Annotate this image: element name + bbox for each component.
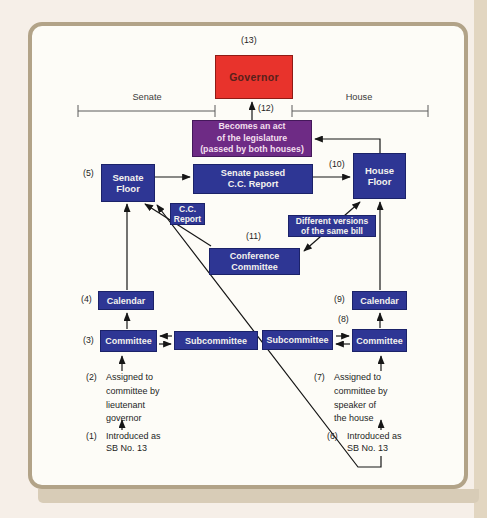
- senate-assigned-line-2: committee by: [106, 385, 160, 399]
- act-line-3: (passed by both houses): [200, 144, 304, 156]
- senate-chamber-label: Senate: [117, 92, 177, 102]
- step-1-number: (1): [86, 431, 97, 441]
- cc-report-line-2: Report: [174, 214, 201, 224]
- senate-assigned-note: Assigned to committee by lieutenant gove…: [106, 371, 160, 426]
- step-12-number: (12): [258, 103, 274, 113]
- house-chamber-label: House: [329, 92, 389, 102]
- house-assigned-line-1: Assigned to: [334, 371, 388, 385]
- senate-committee-label: Committee: [105, 336, 152, 346]
- house-floor-line-2: Floor: [368, 176, 392, 188]
- different-versions-line-2: of the same bill: [301, 226, 363, 236]
- step-4-number: (4): [81, 294, 92, 304]
- step-13-number: (13): [241, 35, 257, 45]
- step-8-number: (8): [338, 314, 349, 324]
- step-9-number: (9): [334, 294, 345, 304]
- cc-report-box: C.C. Report: [170, 203, 205, 225]
- step-10-number: (10): [329, 159, 345, 169]
- house-calendar-box: Calendar: [352, 291, 407, 310]
- governor-label: Governor: [229, 71, 279, 83]
- step-11-number: (11): [246, 231, 261, 241]
- senate-floor-box: Senate Floor: [101, 164, 155, 202]
- conference-committee-box: Conference Committee: [209, 248, 300, 275]
- house-floor-box: House Floor: [353, 153, 406, 199]
- figure-canvas: Senate House (13) (12) (10) (5) (11) (4)…: [0, 0, 487, 518]
- governor-box: Governor: [215, 55, 293, 99]
- becomes-act-box: Becomes an act of the legislature (passe…: [192, 120, 312, 157]
- house-introduced-line-2: SB No. 13: [347, 442, 402, 454]
- senate-floor-line-2: Floor: [116, 183, 140, 195]
- senate-floor-line-1: Senate: [112, 172, 143, 184]
- step-6-number: (6): [327, 431, 338, 441]
- senate-passed-line-2: C.C. Report: [228, 179, 279, 191]
- step-5-number: (5): [83, 168, 94, 178]
- bracket-house: [292, 105, 428, 117]
- senate-introduced-note: Introduced as SB No. 13: [106, 430, 161, 454]
- senate-subcommittee-label: Subcommittee: [185, 336, 247, 346]
- step-7-number: (7): [314, 372, 325, 382]
- step-2-number: (2): [86, 372, 97, 382]
- house-assigned-line-2: committee by: [334, 385, 388, 399]
- house-subcommittee-label: Subcommittee: [266, 335, 328, 345]
- house-assigned-line-3: speaker of: [334, 399, 388, 413]
- senate-calendar-label: Calendar: [107, 296, 146, 306]
- bracket-senate: [78, 105, 215, 117]
- cc-report-line-1: C.C.: [179, 204, 196, 214]
- act-line-1: Becomes an act: [219, 121, 286, 133]
- senate-passed-line-1: Senate passed: [221, 168, 285, 180]
- act-line-2: of the legislature: [217, 133, 287, 145]
- conference-line-2: Committee: [231, 262, 278, 273]
- house-introduced-note: Introduced as SB No. 13: [347, 430, 402, 454]
- house-assigned-note: Assigned to committee by speaker of the …: [334, 371, 388, 426]
- house-floor-line-1: House: [365, 165, 394, 177]
- different-versions-line-1: Different versions: [296, 216, 368, 226]
- senate-committee-box: Committee: [100, 330, 157, 352]
- senate-calendar-box: Calendar: [98, 291, 154, 310]
- house-committee-box: Committee: [352, 329, 407, 352]
- step-3-number: (3): [83, 335, 94, 345]
- senate-introduced-line-2: SB No. 13: [106, 442, 161, 454]
- arrow-housefloor-to-act: [315, 139, 380, 153]
- house-calendar-label: Calendar: [360, 296, 399, 306]
- house-subcommittee-box: Subcommittee: [262, 330, 333, 350]
- house-introduced-line-1: Introduced as: [347, 430, 402, 442]
- senate-assigned-line-3: lieutenant: [106, 399, 160, 413]
- house-assigned-line-4: the house: [334, 412, 388, 426]
- senate-assigned-line-4: governor: [106, 412, 160, 426]
- senate-passed-cc-report-box: Senate passed C.C. Report: [193, 164, 313, 194]
- house-committee-label: Committee: [356, 336, 403, 346]
- senate-introduced-line-1: Introduced as: [106, 430, 161, 442]
- senate-subcommittee-box: Subcommittee: [174, 331, 258, 350]
- conference-line-1: Conference: [230, 251, 280, 262]
- senate-assigned-line-1: Assigned to: [106, 371, 160, 385]
- different-versions-box: Different versions of the same bill: [288, 215, 376, 237]
